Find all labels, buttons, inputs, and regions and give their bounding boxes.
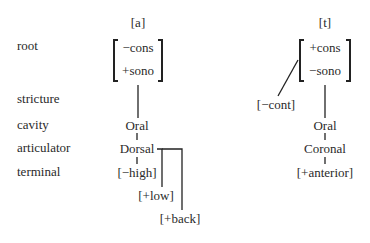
right-bracket [158, 40, 162, 81]
terminal-feature: [−high] [117, 165, 156, 180]
row-label-stricture: stricture [17, 91, 60, 106]
cavity-node: Oral [125, 118, 148, 133]
root-to-stricture-line [278, 60, 298, 96]
row-label-terminal: terminal [17, 164, 61, 179]
terminal-feature: [+back] [160, 211, 201, 226]
root-feature: −cons [122, 40, 153, 55]
left-bracket [300, 40, 304, 81]
segment-label-a: [a] [131, 15, 145, 30]
root-feature: +cons [309, 40, 340, 55]
terminal-feature: [+low] [138, 188, 174, 203]
cavity-node: Oral [313, 118, 336, 133]
tree-t: [t] +cons −sono [−cont] Oral Coronal [+a… [257, 15, 353, 180]
row-label-cavity: cavity [17, 117, 49, 132]
feature-geometry-diagram: root stricture cavity articulator termin… [0, 0, 370, 243]
right-bracket [346, 40, 350, 81]
dorsal-to-low-line [157, 149, 162, 187]
row-label-articulator: articulator [17, 140, 71, 155]
root-feature: −sono [309, 63, 341, 78]
left-bracket [114, 40, 118, 81]
root-feature: +sono [122, 63, 154, 78]
row-label-root: root [17, 38, 38, 53]
segment-label-t: [t] [319, 15, 331, 30]
articulator-node: Dorsal [120, 141, 155, 156]
articulator-node: Coronal [304, 141, 346, 156]
stricture-feature: [−cont] [257, 97, 295, 112]
tree-a: [a] −cons +sono Oral Dorsal [−high] [+lo… [114, 15, 200, 226]
terminal-feature: [+anterior] [297, 165, 353, 180]
